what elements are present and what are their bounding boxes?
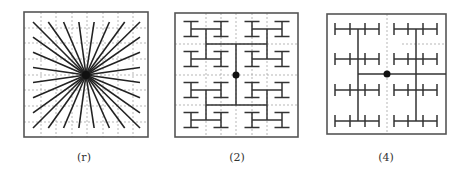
panel-comb-tree — [327, 14, 446, 134]
ray — [86, 75, 140, 128]
center-dot — [233, 72, 240, 79]
caption-2: (2) — [207, 151, 267, 164]
caption-4: (4) — [356, 151, 416, 164]
ray — [86, 22, 140, 75]
panel-starburst — [24, 12, 148, 137]
caption-r: (r) — [54, 151, 114, 164]
center-dot — [82, 71, 90, 79]
center-dot — [384, 71, 391, 78]
panel-h-tree — [175, 13, 298, 137]
